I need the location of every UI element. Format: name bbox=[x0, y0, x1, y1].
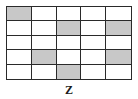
shaded-cell bbox=[57, 21, 82, 35]
shaded-cell bbox=[106, 21, 131, 35]
empty-cell bbox=[32, 65, 57, 79]
empty-cell bbox=[57, 50, 82, 64]
empty-cell bbox=[7, 50, 32, 64]
empty-cell bbox=[81, 65, 106, 79]
empty-cell bbox=[57, 36, 82, 50]
shaded-grid bbox=[6, 6, 132, 80]
empty-cell bbox=[57, 7, 82, 21]
empty-cell bbox=[81, 50, 106, 64]
empty-cell bbox=[81, 21, 106, 35]
empty-cell bbox=[81, 36, 106, 50]
empty-cell bbox=[106, 65, 131, 79]
shaded-cell bbox=[7, 7, 32, 21]
empty-cell bbox=[106, 7, 131, 21]
shaded-cell bbox=[106, 50, 131, 64]
empty-cell bbox=[32, 21, 57, 35]
empty-cell bbox=[32, 7, 57, 21]
empty-cell bbox=[7, 21, 32, 35]
shaded-cell bbox=[57, 65, 82, 79]
empty-cell bbox=[81, 7, 106, 21]
shaded-cell bbox=[32, 50, 57, 64]
grid-label: Z bbox=[0, 83, 138, 98]
empty-cell bbox=[32, 36, 57, 50]
empty-cell bbox=[7, 65, 32, 79]
empty-cell bbox=[106, 36, 131, 50]
empty-cell bbox=[7, 36, 32, 50]
